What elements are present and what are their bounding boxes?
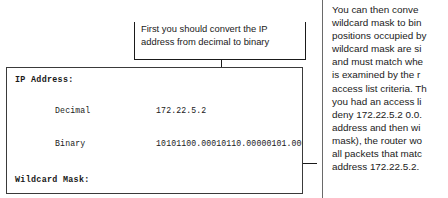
callout-text: First you should convert the IP address … bbox=[141, 23, 269, 47]
body-text-line: address and then wi bbox=[332, 121, 448, 134]
body-text-line: access list criteria. Th bbox=[332, 82, 448, 95]
spacer bbox=[15, 186, 302, 194]
ip-binary-label: Binary bbox=[55, 138, 156, 149]
body-text-line: you had an access li bbox=[332, 95, 448, 108]
ip-decimal-row: Decimal172.22.5.2 bbox=[15, 94, 302, 127]
ip-decimal-value: 172.22.5.2 bbox=[156, 106, 206, 115]
body-text-line: deny 172.22.5.2 0.0. bbox=[332, 108, 448, 121]
ip-decimal-label: Decimal bbox=[55, 105, 156, 116]
body-text-line: mask), the router wo bbox=[332, 134, 448, 147]
body-text-line: address 172.22.5.2. bbox=[332, 160, 448, 173]
figure-diagram: First you should convert the IP address … bbox=[0, 0, 448, 198]
body-text-line: and must match whe bbox=[332, 55, 448, 68]
code-output-content: IP Address: Decimal172.22.5.2 Binary1010… bbox=[7, 68, 302, 194]
column-divider-rule bbox=[322, 0, 323, 198]
body-text-line: is examined by the r bbox=[332, 68, 448, 81]
ip-address-heading: IP Address: bbox=[15, 75, 302, 86]
spacer bbox=[15, 86, 302, 94]
body-text-line: wildcard mask to bin bbox=[332, 16, 448, 29]
body-text-line: positions occupied by bbox=[332, 29, 448, 42]
body-text-line: You can then conve bbox=[332, 3, 448, 16]
body-text-line: wildcard mask are si bbox=[332, 42, 448, 55]
wildcard-mask-heading: Wildcard Mask: bbox=[15, 175, 302, 186]
body-text-column: You can then conve wildcard mask to bin … bbox=[331, 0, 448, 198]
spacer bbox=[15, 160, 302, 175]
ip-binary-value: 10101100.00010110.00000101.00000010 bbox=[156, 139, 303, 148]
callout-convert-ip: First you should convert the IP address … bbox=[134, 22, 306, 60]
code-output-box: IP Address: Decimal172.22.5.2 Binary1010… bbox=[6, 67, 303, 194]
body-text-line: all packets that matc bbox=[332, 147, 448, 160]
ip-binary-row: Binary10101100.00010110.00000101.0000001… bbox=[15, 127, 302, 160]
